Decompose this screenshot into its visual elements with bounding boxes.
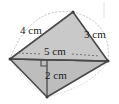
label-height-2cm: 2 cm xyxy=(45,69,67,81)
geometry-figure: 4 cm 3 cm 5 cm 2 cm xyxy=(0,0,119,104)
label-base-5cm: 5 cm xyxy=(44,45,66,57)
geometry-figure-svg: 4 cm 3 cm 5 cm 2 cm xyxy=(0,0,119,104)
label-side-4cm: 4 cm xyxy=(20,24,42,36)
vertex-right-dot xyxy=(107,60,110,63)
vertex-top-dot xyxy=(72,11,75,14)
vertex-bottom-dot xyxy=(46,96,49,99)
vertex-left-dot xyxy=(9,58,12,61)
label-side-3cm: 3 cm xyxy=(84,28,106,40)
